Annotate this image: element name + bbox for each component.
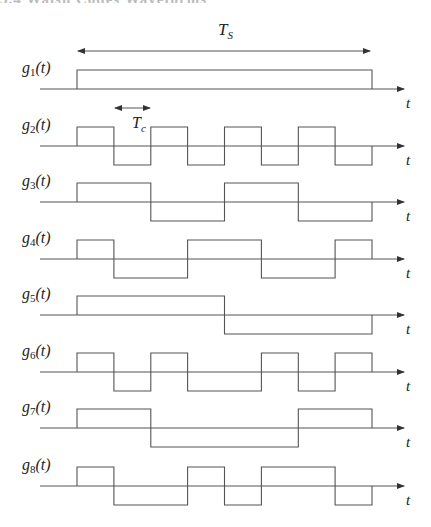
signal-label: g6(t): [22, 342, 51, 361]
period-label: TS: [218, 20, 233, 41]
time-axis-label: t: [406, 378, 411, 394]
time-axis-label: t: [406, 265, 411, 281]
waveform-rows: g1(t)tg2(t)tg3(t)tg4(t)tg5(t)tg6(t)tg7(t…: [22, 59, 411, 508]
signal-label: g2(t): [22, 116, 51, 135]
signal-label: g8(t): [22, 456, 51, 475]
signal-label: g3(t): [22, 172, 51, 191]
waveform-row-g1: g1(t)t: [22, 59, 411, 111]
time-axis-label: t: [406, 492, 411, 508]
signal-label: g1(t): [22, 59, 51, 78]
symbol-period-annotation: TS: [78, 20, 370, 51]
walsh-code-waveform-diagram: TS Tc g1(t)tg2(t)tg3(t)tg4(t)tg5(t)tg6(t…: [0, 0, 431, 527]
walsh-waveform: [77, 70, 372, 89]
time-axis-label: t: [406, 321, 411, 337]
waveform-row-g7: g7(t)t: [22, 398, 411, 450]
time-axis-label: t: [406, 152, 411, 168]
signal-label: g4(t): [22, 229, 51, 248]
time-axis-label: t: [406, 95, 411, 111]
chip-label: Tc: [132, 114, 146, 134]
waveform-row-g6: g6(t)t: [22, 342, 411, 394]
signal-label: g5(t): [22, 285, 51, 304]
waveform-row-g3: g3(t)t: [22, 172, 411, 224]
time-axis-label: t: [406, 208, 411, 224]
signal-label: g7(t): [22, 398, 51, 417]
waveform-row-g2: g2(t)t: [22, 116, 411, 168]
waveform-row-g8: g8(t)t: [22, 456, 411, 508]
chip-period-annotation: Tc: [115, 108, 150, 134]
waveform-row-g4: g4(t)t: [22, 229, 411, 281]
time-axis-label: t: [406, 434, 411, 450]
waveform-row-g5: g5(t)t: [22, 285, 411, 337]
